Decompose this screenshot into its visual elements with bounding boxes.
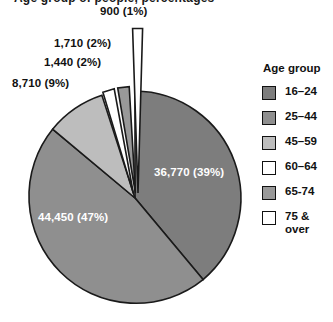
legend-swatch-65-74 — [262, 186, 276, 200]
legend-label-60-64: 60–64 — [285, 160, 317, 173]
slice-label-45-59: 8,710 (9%) — [12, 77, 69, 89]
legend-swatch-60-64 — [262, 161, 276, 175]
legend-swatch-16-24 — [262, 86, 276, 100]
pie-svg — [0, 0, 260, 322]
slice-label-75-over: 900 (1%) — [100, 5, 147, 17]
legend-label-75-over: 75 & over — [285, 210, 309, 235]
legend-title: Age group — [263, 62, 333, 74]
legend-item-45-59: 45–59 — [262, 135, 333, 150]
slice-label-25-44: 44,450 (47%) — [38, 211, 108, 223]
slice-label-60-64: 1,440 (2%) — [44, 56, 101, 68]
legend-item-60-64: 60–64 — [262, 160, 333, 175]
pie-chart-area: 900 (1%) 1,710 (2%) 1,440 (2%) 8,710 (9%… — [0, 0, 260, 322]
legend-item-16-24: 16–24 — [262, 85, 333, 100]
legend: Age group 16–24 25–44 45–59 60–64 65-74 … — [262, 62, 333, 235]
pie-chart-figure: Age group of people, percentages 900 (1%… — [0, 0, 333, 322]
legend-item-25-44: 25–44 — [262, 110, 333, 125]
slice-label-16-24: 36,770 (39%) — [154, 166, 224, 178]
legend-label-45-59: 45–59 — [285, 135, 317, 148]
legend-label-16-24: 16–24 — [285, 85, 317, 98]
legend-swatch-25-44 — [262, 111, 276, 125]
legend-label-25-44: 25–44 — [285, 110, 317, 123]
legend-swatch-45-59 — [262, 136, 276, 150]
legend-item-65-74: 65-74 — [262, 185, 333, 200]
legend-label-65-74: 65-74 — [285, 185, 314, 198]
slice-label-65-74: 1,710 (2%) — [54, 37, 111, 49]
legend-swatch-75-over — [262, 211, 276, 225]
legend-item-75-over: 75 & over — [262, 210, 333, 235]
